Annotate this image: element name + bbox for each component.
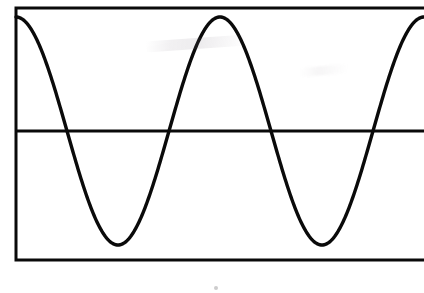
figure-canvas [0,0,424,293]
figure-background [0,0,424,293]
sine-wave-figure-svg [0,0,424,293]
